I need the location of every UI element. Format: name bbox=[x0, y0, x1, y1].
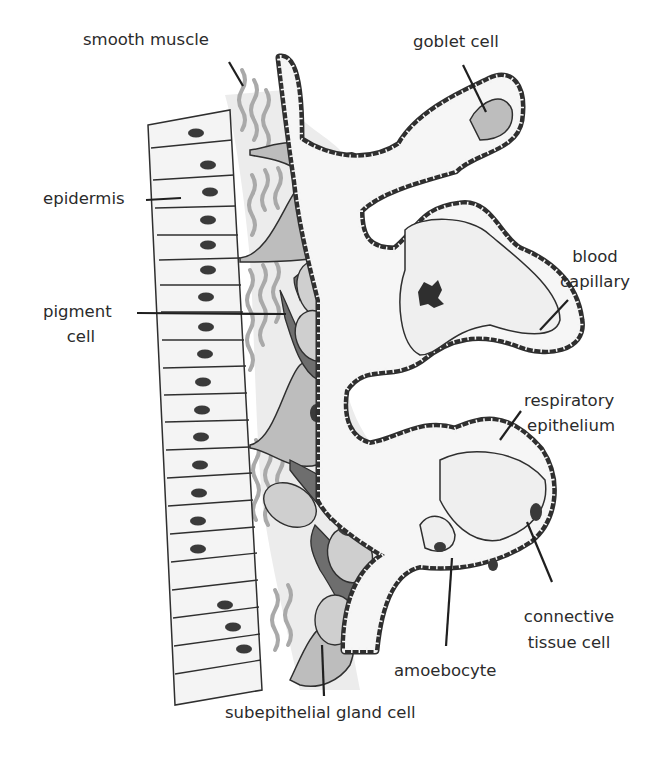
label-blood-capillary-line1: blood bbox=[555, 247, 635, 267]
label-amoebocyte: amoebocyte bbox=[394, 661, 496, 681]
label-connective-tissue-cell-line1: connective bbox=[514, 607, 624, 627]
label-smooth-muscle: smooth muscle bbox=[83, 30, 209, 50]
label-pigment-cell-line2: cell bbox=[43, 327, 119, 347]
label-epidermis: epidermis bbox=[43, 189, 125, 209]
label-respiratory-epithelium-line1: respiratory bbox=[524, 391, 614, 411]
label-subepithelial-gland-cell: subepithelial gland cell bbox=[225, 703, 416, 723]
label-goblet-cell: goblet cell bbox=[413, 32, 499, 52]
label-blood-capillary-line2: capillary bbox=[548, 272, 642, 292]
label-respiratory-epithelium-line2: epithelium bbox=[527, 416, 615, 436]
label-pigment-cell-line1: pigment bbox=[43, 302, 112, 322]
label-connective-tissue-cell-line2: tissue cell bbox=[514, 633, 624, 653]
